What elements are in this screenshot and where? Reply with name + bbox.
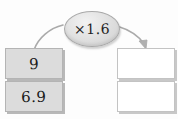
input-box-1[interactable]: 9: [5, 48, 63, 79]
input-value-1: 9: [29, 54, 40, 72]
function-machine-diagram: ×1.6 9 6.9: [0, 0, 178, 119]
arrow-input-to-operator: [34, 25, 63, 50]
output-box-1[interactable]: [117, 48, 175, 79]
output-box-2[interactable]: [117, 81, 175, 112]
input-value-2: 6.9: [21, 87, 47, 106]
input-box-2[interactable]: 6.9: [5, 81, 63, 112]
operator-label: ×1.6: [74, 21, 110, 38]
operator-oval: ×1.6: [64, 11, 120, 47]
arrow-operator-to-output: [117, 26, 144, 44]
